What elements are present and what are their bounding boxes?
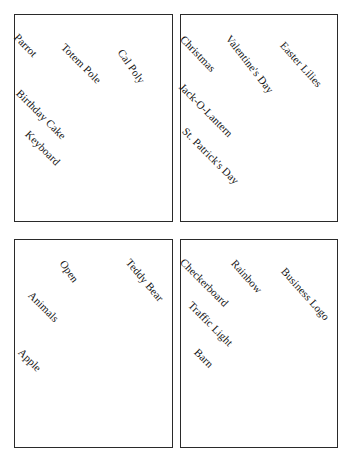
panel-bottom-right <box>180 239 338 448</box>
panel-bottom-left <box>14 239 173 448</box>
figure-canvas: ParrotTotem PoleCal PolyBirthday CakeKey… <box>0 0 358 469</box>
panel-top-right <box>180 14 338 222</box>
